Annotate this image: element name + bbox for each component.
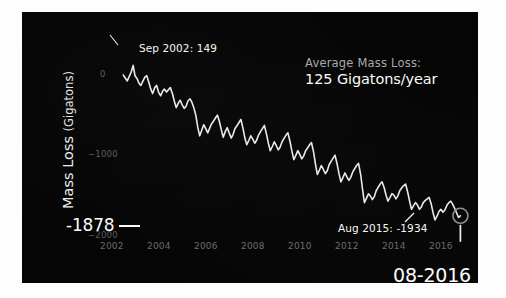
average-mass-loss-block: Average Mass Loss: 125 Gigatons/year: [305, 56, 437, 87]
current-value-dash: [119, 225, 140, 227]
current-value-text: -1878: [66, 215, 114, 235]
last-value-leader-line: [405, 213, 414, 222]
current-value-callout: -1878: [66, 215, 140, 235]
peak-annotation-label: Sep 2002: 149: [139, 43, 217, 55]
last-reading-annotation: Aug 2015: -1934: [338, 223, 427, 235]
average-mass-loss-value: 125 Gigatons/year: [305, 71, 437, 87]
date-stamp: 08-2016: [393, 264, 471, 283]
data-series-line: [123, 65, 460, 220]
screenshot-root: Mass Loss (Gigatons) 0 −1000 −2000 2002 …: [0, 0, 506, 298]
mass-loss-line-chart: [22, 12, 478, 283]
peak-leader-line: [110, 35, 118, 45]
average-mass-loss-label: Average Mass Loss:: [305, 56, 437, 70]
chart-panel: Mass Loss (Gigatons) 0 −1000 −2000 2002 …: [22, 12, 478, 283]
